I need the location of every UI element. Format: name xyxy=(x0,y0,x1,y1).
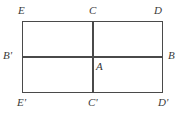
vertex-label-e: E xyxy=(18,5,25,16)
vertex-label-b: B xyxy=(168,50,175,61)
vertex-label-c: C xyxy=(89,5,96,16)
geometry-figure: E C D B' A B E' C' D' xyxy=(0,0,187,118)
vertex-label-c-prime: C' xyxy=(88,97,98,108)
vertex-label-d-prime: D' xyxy=(158,97,168,108)
vertex-label-e-prime: E' xyxy=(17,97,26,108)
vertex-label-a: A xyxy=(96,61,103,72)
vertex-label-b-prime: B' xyxy=(3,50,12,61)
vertex-label-d: D xyxy=(154,5,162,16)
